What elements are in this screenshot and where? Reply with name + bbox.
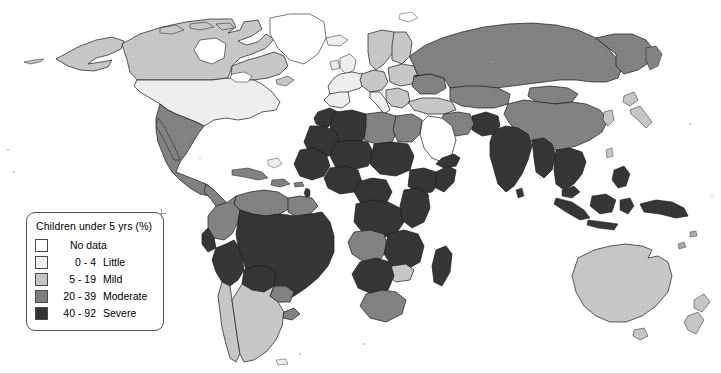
region-libya — [364, 112, 398, 144]
legend-label-no-data: No data — [70, 239, 107, 251]
map-page: Children under 5 yrs (%) No data 0 - 4 L… — [0, 0, 721, 374]
legend-swatch-little — [35, 256, 48, 269]
region-taiwan — [606, 148, 613, 158]
region-chad-sudan — [370, 142, 414, 176]
region-kazakhstan — [450, 86, 510, 108]
legend-label-severe: Severe — [103, 307, 136, 319]
legend-label-mild: Mild — [103, 273, 122, 285]
legend-row-no-data[interactable]: No data — [35, 237, 155, 253]
region-puerto-rico — [294, 182, 304, 187]
region-falklands — [276, 359, 288, 365]
legend-swatch-no-data — [35, 239, 48, 252]
legend-range-severe: 40 - 92 — [54, 307, 96, 319]
map-legend[interactable]: Children under 5 yrs (%) No data 0 - 4 L… — [26, 212, 164, 331]
region-mali-niger — [330, 140, 374, 170]
legend-row-severe[interactable]: 40 - 92 Severe — [35, 305, 155, 321]
legend-swatch-moderate — [35, 290, 48, 303]
legend-swatch-mild — [35, 273, 48, 286]
legend-title: Children under 5 yrs (%) — [36, 220, 155, 233]
legend-row-mild[interactable]: 5 - 19 Mild — [35, 271, 155, 287]
legend-range-moderate: 20 - 39 — [54, 290, 96, 302]
legend-swatch-severe — [35, 307, 48, 320]
legend-row-moderate[interactable]: 20 - 39 Moderate — [35, 288, 155, 304]
legend-label-little: Little — [103, 256, 125, 268]
legend-label-moderate: Moderate — [103, 290, 147, 302]
legend-row-little[interactable]: 0 - 4 Little — [35, 254, 155, 270]
legend-range-mild: 5 - 19 — [54, 273, 96, 285]
legend-range-little: 0 - 4 — [54, 256, 96, 268]
